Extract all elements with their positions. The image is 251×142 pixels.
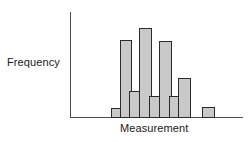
histogram-bar xyxy=(202,107,215,118)
plot-area: Frequency Measurement xyxy=(0,0,251,142)
histogram-bar xyxy=(178,78,191,118)
y-axis-line xyxy=(70,12,71,118)
x-axis-label: Measurement xyxy=(120,122,188,135)
y-axis-label: Frequency xyxy=(7,56,60,69)
histogram-screenshot: Frequency Measurement xyxy=(0,0,251,142)
